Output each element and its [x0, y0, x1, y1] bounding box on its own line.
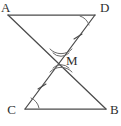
vertex-label-a: A	[1, 0, 11, 15]
angle-arc-d	[80, 16, 89, 25]
vertex-label-c: C	[7, 102, 16, 117]
tick-cm	[38, 84, 46, 89]
geometry-figure: A D C B M	[0, 0, 121, 126]
segment-cd	[25, 15, 95, 109]
figure-canvas: A D C B M	[0, 0, 121, 126]
segment-ab	[8, 15, 106, 109]
vertex-label-b: B	[110, 102, 119, 117]
vertex-label-d: D	[100, 0, 109, 15]
vertex-label-m: M	[66, 53, 78, 68]
